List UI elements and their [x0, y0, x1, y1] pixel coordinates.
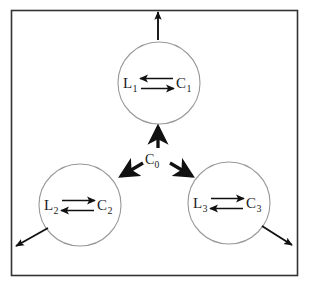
cluster-1-left-label: L [123, 75, 132, 91]
diagram-canvas: L 1 C 1 L 2 C 2 L 3 C 3 [0, 0, 309, 286]
cluster-2-right-label: C [97, 197, 107, 213]
cluster-1-left-subscript: 1 [133, 83, 138, 94]
diagram-root: L 1 C 1 L 2 C 2 L 3 C 3 [0, 0, 309, 286]
cluster-2-right-subscript: 2 [108, 205, 113, 216]
cluster-2-left-label: L [44, 197, 53, 213]
cluster-1-right-subscript: 1 [187, 83, 192, 94]
cluster-3-left-subscript: 3 [203, 203, 208, 214]
cluster-3-right-label: C [246, 195, 256, 211]
cluster-2-left-subscript: 2 [54, 205, 59, 216]
cluster-3-left-label: L [193, 195, 202, 211]
cluster-1-right-label: C [176, 75, 186, 91]
outer-frame [12, 11, 298, 276]
cluster-3-right-subscript: 3 [257, 203, 262, 214]
hub-label: C [145, 152, 154, 167]
hub-subscript: 0 [155, 160, 160, 170]
